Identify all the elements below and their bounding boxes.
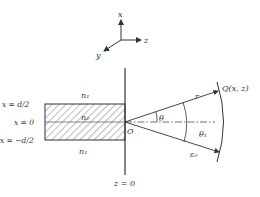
point-q-label: Q(x, z) (222, 84, 249, 93)
core-label: n₂ (81, 113, 89, 122)
theta1-label: θ₁ (199, 130, 207, 139)
wavefront-arc (217, 82, 224, 162)
waveguide-diagram: x z y z = 0 x = d/2 x = 0 x = −d/2 n₁ n₂… (0, 0, 260, 197)
r-label: r (195, 92, 200, 101)
z-axis-label: z (143, 36, 149, 45)
theta-label: θ (159, 114, 164, 123)
x-axis-label: x (118, 10, 123, 19)
cladding-bottom-label: n₁ (79, 147, 87, 156)
center-boundary-label: x = 0 (14, 118, 34, 127)
boundary-label: z = 0 (113, 179, 135, 188)
cladding-top-label: n₁ (81, 91, 89, 100)
y-axis-label: y (95, 51, 101, 60)
ray-fan (125, 82, 224, 162)
theta-arc (156, 112, 157, 122)
top-boundary-label: x = d/2 (2, 100, 30, 109)
origin-label: O (127, 127, 134, 136)
coordinate-axes: x z y (95, 10, 149, 60)
bottom-boundary-label: x = −d/2 (0, 136, 34, 145)
y-axis-arrow (104, 40, 121, 51)
ray-r (125, 91, 218, 122)
lower-ray-label: ε₀ (190, 150, 198, 159)
